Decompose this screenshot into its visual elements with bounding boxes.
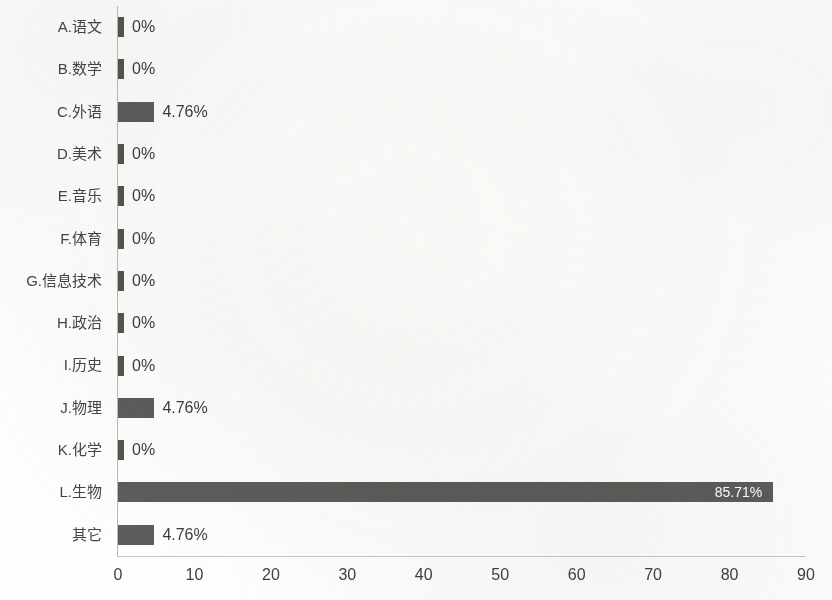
- bar: [118, 313, 124, 333]
- bar-row: B.数学0%: [0, 48, 832, 90]
- bar: [118, 398, 154, 418]
- x-tick-label: 30: [338, 566, 356, 584]
- category-label: 其它: [0, 514, 115, 556]
- category-label: H.政治: [0, 302, 115, 344]
- bar-row: F.体育0%: [0, 218, 832, 260]
- category-label: L.生物: [0, 471, 115, 513]
- bar-value-label: 0%: [132, 313, 155, 333]
- x-tick-label: 50: [491, 566, 509, 584]
- bar-row: E.音乐0%: [0, 175, 832, 217]
- bar-value-label: 4.76%: [162, 525, 207, 545]
- category-label: J.物理: [0, 387, 115, 429]
- bar: [118, 144, 124, 164]
- bar-row: L.生物85.71%: [0, 471, 832, 513]
- bar: [118, 17, 124, 37]
- bar: [118, 59, 124, 79]
- x-tick-label: 0: [114, 566, 123, 584]
- x-tick-label: 80: [721, 566, 739, 584]
- category-label: A.语文: [0, 6, 115, 48]
- x-tick-label: 40: [415, 566, 433, 584]
- category-label: K.化学: [0, 429, 115, 471]
- category-label: B.数学: [0, 48, 115, 90]
- bar: [118, 102, 154, 122]
- x-tick-label: 60: [568, 566, 586, 584]
- bar-value-label: 0%: [132, 229, 155, 249]
- bar-value-label: 4.76%: [162, 398, 207, 418]
- x-tick-label: 20: [262, 566, 280, 584]
- category-label: D.美术: [0, 133, 115, 175]
- bar-value-label: 0%: [132, 59, 155, 79]
- bar: [118, 525, 154, 545]
- category-label: E.音乐: [0, 175, 115, 217]
- bar-row: 其它4.76%: [0, 514, 832, 556]
- category-label: I.历史: [0, 344, 115, 386]
- bar-value-label: 0%: [132, 17, 155, 37]
- bar-value-label: 0%: [132, 271, 155, 291]
- bar-value-label: 0%: [132, 356, 155, 376]
- bar-row: C.外语4.76%: [0, 91, 832, 133]
- bar-row: I.历史0%: [0, 344, 832, 386]
- bar-value-label: 85.71%: [118, 482, 762, 502]
- category-label: F.体育: [0, 218, 115, 260]
- bar: [118, 229, 124, 249]
- bar: [118, 440, 124, 460]
- x-axis-tick-labels: 0102030405060708090: [0, 566, 832, 596]
- category-label: G.信息技术: [0, 260, 115, 302]
- bar-row: D.美术0%: [0, 133, 832, 175]
- bar: [118, 356, 124, 376]
- bar-row: H.政治0%: [0, 302, 832, 344]
- bar-row: A.语文0%: [0, 6, 832, 48]
- bar-row: J.物理4.76%: [0, 387, 832, 429]
- x-tick-label: 90: [797, 566, 815, 584]
- bar: [118, 271, 124, 291]
- bar: [118, 186, 124, 206]
- x-tick-label: 10: [186, 566, 204, 584]
- bar-value-label: 0%: [132, 440, 155, 460]
- bar-chart: A.语文0%B.数学0%C.外语4.76%D.美术0%E.音乐0%F.体育0%G…: [0, 0, 832, 600]
- x-tick-label: 70: [644, 566, 662, 584]
- bar-value-label: 0%: [132, 144, 155, 164]
- bar-row: G.信息技术0%: [0, 260, 832, 302]
- bar-value-label: 0%: [132, 186, 155, 206]
- bar-row: K.化学0%: [0, 429, 832, 471]
- bar-value-label: 4.76%: [162, 102, 207, 122]
- category-label: C.外语: [0, 91, 115, 133]
- bar-rows: A.语文0%B.数学0%C.外语4.76%D.美术0%E.音乐0%F.体育0%G…: [0, 0, 832, 600]
